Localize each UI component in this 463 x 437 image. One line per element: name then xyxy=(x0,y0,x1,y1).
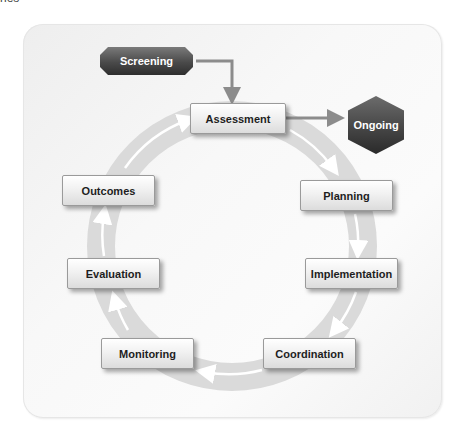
monitoring-node: Monitoring xyxy=(101,338,194,369)
outcomes-node: Outcomes xyxy=(62,175,155,206)
screening-node: Screening xyxy=(100,47,193,75)
coordination-node: Coordination xyxy=(263,338,356,369)
cycle-ring-and-arrows xyxy=(0,0,463,437)
evaluation-node: Evaluation xyxy=(67,258,160,289)
assessment-node: Assessment xyxy=(190,103,286,134)
implementation-node: Implementation xyxy=(305,258,398,289)
planning-node: Planning xyxy=(300,180,393,211)
arrow-screening-to-assessment xyxy=(196,61,232,96)
